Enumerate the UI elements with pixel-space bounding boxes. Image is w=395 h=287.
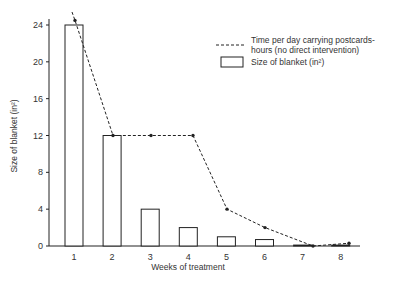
chart-canvas: 0481216202412345678 Weeks of treatment S… — [0, 0, 395, 287]
bar — [217, 237, 235, 246]
bar — [65, 25, 83, 246]
legend-line-label-1: Time per day carrying postcards- — [251, 35, 375, 45]
bar — [332, 245, 350, 246]
y-tick-label: 12 — [33, 131, 43, 141]
x-tick-label: 3 — [148, 252, 153, 262]
y-tick-label: 20 — [33, 57, 43, 67]
x-tick-label: 8 — [338, 252, 343, 262]
x-tick-label: 6 — [262, 252, 267, 262]
x-axis-title: Weeks of treatment — [151, 262, 225, 272]
y-tick-label: 0 — [38, 241, 43, 251]
y-axis-title: Size of blanket (in²) — [9, 99, 19, 172]
bar — [256, 240, 274, 246]
legend-bar-label: Size of blanket (in²) — [251, 57, 324, 67]
line-marker — [311, 244, 314, 247]
bar — [294, 245, 312, 246]
line-marker — [73, 19, 76, 22]
legend: Time per day carrying postcards- hours (… — [216, 35, 375, 67]
x-tick-label: 4 — [186, 252, 191, 262]
bar — [179, 228, 197, 246]
x-tick-label: 5 — [224, 252, 229, 262]
x-tick-label: 2 — [110, 252, 115, 262]
y-tick-label: 8 — [38, 167, 43, 177]
line-marker — [347, 242, 350, 245]
y-tick-label: 16 — [33, 94, 43, 104]
bar — [141, 209, 159, 246]
y-tick-label: 24 — [33, 20, 43, 30]
line-marker — [225, 207, 228, 210]
line-marker — [191, 134, 194, 137]
y-tick-label: 4 — [38, 204, 43, 214]
legend-line-label-2: hours (no direct intervention) — [251, 45, 359, 55]
line-marker — [263, 226, 266, 229]
bar — [103, 136, 121, 247]
line-marker — [111, 134, 114, 137]
line-marker — [149, 134, 152, 137]
x-tick-label: 7 — [300, 252, 305, 262]
x-tick-label: 1 — [71, 252, 76, 262]
legend-bar-swatch — [221, 57, 243, 67]
